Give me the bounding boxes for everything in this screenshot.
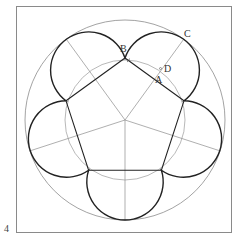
point-d-marker [160,68,162,70]
pentafoil-construction-diagram: B C D A 4 [0,0,240,243]
spokes [30,39,220,220]
label-c: C [184,28,191,39]
label-d: D [164,63,171,74]
label-b: B [120,43,127,54]
figure-number: 4 [4,223,9,234]
label-a: A [155,74,163,85]
figure-frame [17,7,232,233]
